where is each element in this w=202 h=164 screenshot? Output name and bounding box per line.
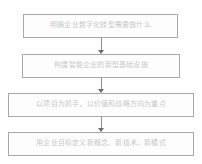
flow-node-step-1[interactable]: 明确企业数字化转型需要做什么 xyxy=(23,14,178,38)
flow-node-label: 构建智能企业的新型基础设施 xyxy=(54,62,148,70)
flow-node-step-4[interactable]: 用企业目标定义新概念、新技术、新模式 xyxy=(8,132,194,156)
flow-node-step-2[interactable]: 构建智能企业的新型基础设施 xyxy=(22,54,180,78)
flow-node-label: 以项目为抓手，以价值和战略方向为重点 xyxy=(36,101,166,109)
flow-node-step-3[interactable]: 以项目为抓手，以价值和战略方向为重点 xyxy=(8,93,194,117)
flowchart-diagram: 明确企业数字化转型需要做什么 构建智能企业的新型基础设施 以项目为抓手，以价值和… xyxy=(0,0,202,164)
flow-node-label: 明确企业数字化转型需要做什么 xyxy=(50,22,151,30)
flow-node-label: 用企业目标定义新概念、新技术、新模式 xyxy=(36,140,166,148)
